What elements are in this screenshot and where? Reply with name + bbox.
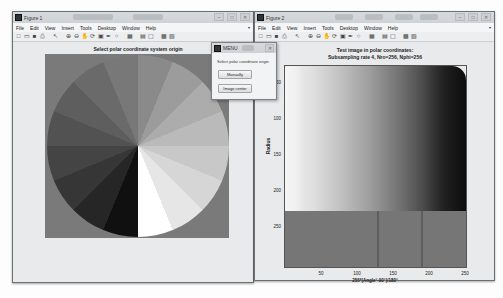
title-blur (395, 14, 413, 20)
menubar-dock-arrow-icon[interactable]: ▾ (489, 25, 491, 30)
colorbar-icon[interactable]: ▦ (126, 33, 133, 40)
menu-insert[interactable]: Insert (61, 25, 74, 31)
title-blur (242, 45, 254, 51)
menu-insert[interactable]: Insert (303, 25, 316, 31)
rotate-icon[interactable]: ⟳ (331, 33, 338, 40)
zoom-out-icon[interactable]: ⊖ (73, 33, 80, 40)
pointer-icon[interactable]: ↖ (52, 33, 59, 40)
desktop: Figure 1 – □ ✕ File Edit View Insert Too… (0, 0, 503, 298)
new-file-icon[interactable]: □ (15, 33, 22, 40)
dock-icon[interactable]: ▧ (168, 33, 175, 40)
figure-2-toolbar: □ ▭ ■ ⎙ ↖ ⊕ ⊖ ✋ ⟳ ▣ ✒ ○ ▦ ▤ ▢ ▩ ▧ (255, 32, 494, 42)
menu-desktop[interactable]: Desktop (340, 25, 358, 31)
title-blur (335, 14, 353, 20)
close-button[interactable]: ✕ (265, 44, 274, 52)
menu-file[interactable]: File (258, 25, 266, 31)
polar-image-axes[interactable] (284, 65, 467, 268)
colorbar-icon[interactable]: ▦ (368, 33, 375, 40)
matlab-figure-icon (257, 14, 264, 21)
maximize-button[interactable]: □ (468, 13, 478, 21)
legend-icon[interactable]: ▤ (139, 33, 146, 40)
brush-icon[interactable]: ✒ (347, 33, 354, 40)
close-button[interactable]: ✕ (481, 13, 491, 21)
brush-icon[interactable]: ✒ (105, 33, 112, 40)
title-blur (73, 14, 113, 20)
figure-2-canvas: Test image in polar coordinates: Subsamp… (255, 43, 494, 280)
minimize-button[interactable]: – (455, 13, 465, 21)
polar-image-gradient (285, 66, 466, 211)
menu-help[interactable]: Help (146, 25, 156, 31)
y-tick-200: 200 (265, 188, 281, 193)
menu-tools[interactable]: Tools (322, 25, 334, 31)
matlab-figure-icon (214, 45, 221, 52)
angular-test-disk[interactable] (47, 55, 229, 237)
menu-window[interactable]: Window (122, 25, 140, 31)
data-cursor-icon[interactable]: ▣ (97, 33, 104, 40)
x-tick-100: 100 (349, 271, 365, 276)
link-icon[interactable]: ○ (113, 33, 120, 40)
hide-plot-tools-icon[interactable]: ▢ (389, 33, 396, 40)
menu-view[interactable]: View (287, 25, 298, 31)
show-plot-tools-icon[interactable]: ▩ (402, 33, 409, 40)
open-file-icon[interactable]: ▭ (265, 33, 272, 40)
y-axis-label: Radius (265, 131, 271, 161)
zoom-out-icon[interactable]: ⊖ (315, 33, 322, 40)
menu-dialog-body: Select polar coordinate origin Manually … (213, 53, 275, 98)
polar-origin-axes[interactable] (45, 54, 229, 238)
hide-plot-tools-icon[interactable]: ▢ (147, 33, 154, 40)
menu-dialog-prompt: Select polar coordinate origin (217, 59, 269, 64)
menu-dialog: MENU ✕ Select polar coordinate origin Ma… (211, 42, 277, 100)
y-tick-100: 100 (265, 116, 281, 121)
x-axis-label: 255*(Angle°-90°)/180° (315, 278, 435, 283)
manually-button[interactable]: Manually (218, 70, 252, 79)
menu-file[interactable]: File (16, 25, 24, 31)
figure-2-axes-title-line2: Subsampling rate 4, Nro=256, Nphi=256 (285, 54, 465, 60)
figure-1-titlebar[interactable]: Figure 1 – □ ✕ (13, 12, 253, 23)
save-icon[interactable]: ■ (31, 33, 38, 40)
menu-view[interactable]: View (45, 25, 56, 31)
show-plot-tools-icon[interactable]: ▩ (160, 33, 167, 40)
link-icon[interactable]: ○ (355, 33, 362, 40)
title-blur (365, 14, 383, 20)
menu-edit[interactable]: Edit (272, 25, 281, 31)
pointer-icon[interactable]: ↖ (294, 33, 301, 40)
close-button[interactable]: ✕ (240, 13, 250, 21)
title-blur (420, 14, 438, 20)
maximize-button[interactable]: □ (227, 13, 237, 21)
figure-2-title: Figure 2 (266, 15, 284, 21)
rotate-icon[interactable]: ⟳ (89, 33, 96, 40)
menu-edit[interactable]: Edit (30, 25, 39, 31)
zoom-in-icon[interactable]: ⊕ (65, 33, 72, 40)
pan-icon[interactable]: ✋ (323, 33, 330, 40)
figure-1-menubar: File Edit View Insert Tools Desktop Wind… (13, 23, 253, 32)
figure-2-axes-title-line1: Test image in polar coordinates: (285, 47, 465, 53)
minimize-button[interactable]: – (214, 13, 224, 21)
figure-2-titlebar[interactable]: Figure 2 – □ ✕ (255, 12, 494, 23)
polar-image-line (377, 211, 379, 267)
dock-icon[interactable]: ▧ (410, 33, 417, 40)
figure-1-toolbar: □ ▭ ■ ⎙ ↖ ⊕ ⊖ ✋ ⟳ ▣ ✒ ○ ▦ ▤ ▢ ▩ ▧ (13, 32, 253, 42)
menubar-dock-arrow-icon[interactable]: ▾ (248, 25, 250, 30)
data-cursor-icon[interactable]: ▣ (339, 33, 346, 40)
open-file-icon[interactable]: ▭ (23, 33, 30, 40)
x-tick-150: 150 (385, 271, 401, 276)
pan-icon[interactable]: ✋ (81, 33, 88, 40)
menu-dialog-titlebar[interactable]: MENU ✕ (212, 43, 276, 53)
print-icon[interactable]: ⎙ (39, 33, 46, 40)
menu-help[interactable]: Help (388, 25, 398, 31)
zoom-in-icon[interactable]: ⊕ (307, 33, 314, 40)
x-tick-50: 50 (313, 271, 329, 276)
figure-2-window: Figure 2 – □ ✕ File Edit View Insert Too… (254, 11, 495, 281)
image-center-button[interactable]: Image center (218, 84, 252, 93)
matlab-figure-icon (15, 14, 22, 21)
figure-1-title: Figure 1 (24, 15, 42, 21)
menu-window[interactable]: Window (364, 25, 382, 31)
new-file-icon[interactable]: □ (257, 33, 264, 40)
menu-tools[interactable]: Tools (80, 25, 92, 31)
menu-desktop[interactable]: Desktop (98, 25, 116, 31)
polar-image-line (421, 211, 423, 267)
title-blur (133, 14, 163, 20)
legend-icon[interactable]: ▤ (381, 33, 388, 40)
save-icon[interactable]: ■ (273, 33, 280, 40)
print-icon[interactable]: ⎙ (281, 33, 288, 40)
